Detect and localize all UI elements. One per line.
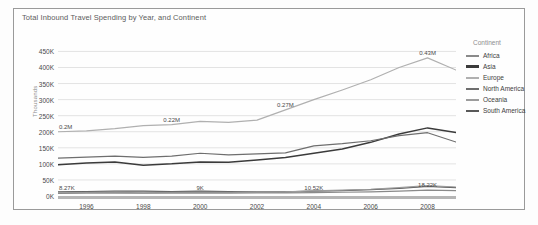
legend: Continent AfricaAsiaEuropeNorth AmericaO…: [466, 39, 538, 116]
legend-item-label: South America: [483, 107, 525, 114]
y-axis-tick-label: 300K: [39, 96, 54, 103]
data-point-label: 0.2M: [59, 124, 72, 130]
data-point-label: 9K: [196, 185, 203, 191]
data-point-label: 0.27M: [277, 102, 294, 108]
legend-item-oceania[interactable]: Oceania: [466, 94, 538, 105]
x-axis-tick-label: 2004: [307, 203, 321, 210]
y-axis-tick-label: 100K: [39, 160, 54, 167]
legend-swatch-icon: [466, 65, 479, 68]
data-point-label: 0.43M: [419, 50, 436, 56]
legend-swatch-icon: [466, 99, 479, 101]
legend-item-africa[interactable]: Africa: [466, 50, 538, 61]
y-axis-tick-label: 0K: [46, 193, 54, 200]
series-line-asia: [58, 128, 456, 165]
data-point-label: 8.27K: [59, 185, 75, 191]
legend-swatch-icon: [466, 77, 479, 79]
x-axis-tick-label: 2002: [250, 203, 264, 210]
y-axis-tick-label: 350K: [39, 80, 54, 87]
legend-item-asia[interactable]: Asia: [466, 61, 538, 72]
legend-item-south-america[interactable]: South America: [466, 105, 538, 116]
chart-frame: Total Inbound Travel Spending by Year, a…: [13, 8, 525, 210]
legend-title: Continent: [466, 39, 538, 46]
data-point-label: 10.52K: [304, 185, 323, 191]
x-axis-tick-label: 1996: [79, 203, 93, 210]
y-axis-tick-label: 450K: [39, 48, 54, 55]
legend-swatch-icon: [466, 88, 479, 90]
y-axis-tick-label: 200K: [39, 128, 54, 135]
x-axis-tick-label: 2006: [363, 203, 377, 210]
legend-item-label: North America: [483, 85, 524, 92]
y-axis-title: Thousands: [32, 86, 38, 118]
y-axis-tick-label: 250K: [39, 112, 54, 119]
plot-area: 0K50K100K150K200K250K300K350K400K450K 19…: [58, 45, 456, 196]
series-line-europe: [58, 58, 456, 132]
data-point-label: 0.22M: [163, 117, 180, 123]
x-axis-tick-label: 2000: [193, 203, 207, 210]
legend-item-label: Asia: [483, 63, 496, 70]
x-axis-baseline: [58, 196, 456, 199]
legend-item-label: Oceania: [483, 96, 507, 103]
legend-item-europe[interactable]: Europe: [466, 72, 538, 83]
legend-item-label: Africa: [483, 52, 500, 59]
legend-item-list: AfricaAsiaEuropeNorth AmericaOceaniaSout…: [466, 50, 538, 116]
y-axis-tick-label: 150K: [39, 144, 54, 151]
legend-item-label: Europe: [483, 74, 504, 81]
legend-item-north-america[interactable]: North America: [466, 83, 538, 94]
line-chart-svg: [58, 45, 456, 196]
data-point-label: 18.22K: [418, 182, 437, 188]
legend-swatch-icon: [466, 55, 479, 57]
y-axis-tick-label: 400K: [39, 64, 54, 71]
y-axis-tick-label: 50K: [42, 176, 54, 183]
series-line-north-america: [58, 133, 456, 158]
legend-swatch-icon: [466, 110, 479, 112]
x-axis-tick-label: 2008: [420, 203, 434, 210]
x-axis-tick-label: 1998: [136, 203, 150, 210]
chart-title: Total Inbound Travel Spending by Year, a…: [22, 13, 206, 22]
visualization-root: Total Inbound Travel Spending by Year, a…: [0, 0, 538, 225]
